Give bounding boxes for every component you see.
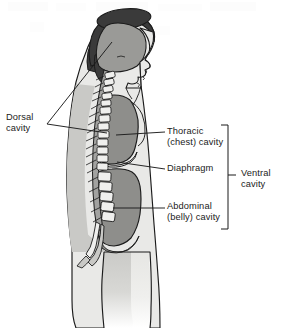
label-abdominal-cavity-line1: Abdominal [167, 201, 220, 212]
body-cavities-diagram [0, 0, 289, 328]
label-dorsal-cavity: Dorsal cavity [6, 112, 33, 135]
anatomy-figure-page: Dorsal cavity Thoracic (chest) cavity Di… [0, 0, 289, 328]
label-ventral-cavity: Ventral cavity [241, 168, 271, 191]
label-diaphragm: Diaphragm [167, 163, 213, 174]
label-dorsal-cavity-line2: cavity [6, 123, 33, 134]
label-thoracic-cavity-line1: Thoracic [167, 126, 223, 137]
cranial-cavity [96, 23, 146, 72]
label-dorsal-cavity-line1: Dorsal [6, 112, 33, 123]
label-abdominal-cavity: Abdominal (belly) cavity [167, 201, 220, 224]
label-thoracic-cavity-line2: (chest) cavity [167, 137, 223, 148]
leg-front-highlight [131, 250, 151, 328]
label-ventral-cavity-line1: Ventral [241, 168, 271, 179]
label-abdominal-cavity-line2: (belly) cavity [167, 212, 220, 223]
label-ventral-cavity-line2: cavity [241, 179, 271, 190]
label-thoracic-cavity: Thoracic (chest) cavity [167, 126, 223, 149]
